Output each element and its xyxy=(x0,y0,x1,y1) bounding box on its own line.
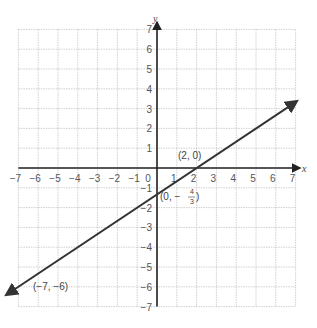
svg-text:−2: −2 xyxy=(109,173,121,184)
svg-text:−1: −1 xyxy=(141,183,153,194)
svg-text:7: 7 xyxy=(146,24,152,35)
coordinate-plane: −7−6−5−4−3−2−101234567−7−6−5−4−3−2−11234… xyxy=(0,0,317,328)
svg-text:3: 3 xyxy=(190,198,194,205)
svg-text:−4: −4 xyxy=(141,242,153,253)
svg-text:−7: −7 xyxy=(141,302,153,313)
svg-text:3: 3 xyxy=(146,104,152,115)
y-axis-label: y xyxy=(152,13,158,24)
svg-text:−3: −3 xyxy=(89,173,101,184)
svg-text:4: 4 xyxy=(190,188,194,195)
svg-text:−6: −6 xyxy=(29,173,41,184)
svg-text:2: 2 xyxy=(191,173,197,184)
svg-text:7: 7 xyxy=(290,173,296,184)
svg-text:−5: −5 xyxy=(141,262,153,273)
svg-text:−4: −4 xyxy=(69,173,81,184)
plotted-line xyxy=(12,102,295,291)
svg-text:6: 6 xyxy=(146,44,152,55)
axes xyxy=(18,22,300,307)
svg-text:4: 4 xyxy=(146,84,152,95)
svg-text:3: 3 xyxy=(211,173,217,184)
svg-text:(0, −: (0, − xyxy=(160,191,180,202)
svg-text:6: 6 xyxy=(270,173,276,184)
svg-text:−7: −7 xyxy=(10,173,22,184)
annotation-2-0: (2, 0) xyxy=(178,150,201,161)
annotation-neg7-neg6: (−7, −6) xyxy=(33,281,68,292)
svg-text:2: 2 xyxy=(146,123,152,134)
svg-text:−1: −1 xyxy=(128,173,140,184)
svg-text:5: 5 xyxy=(146,64,152,75)
svg-text:4: 4 xyxy=(230,173,236,184)
x-axis-label: x xyxy=(301,163,307,174)
svg-text:−3: −3 xyxy=(141,222,153,233)
svg-text:): ) xyxy=(196,191,199,202)
annotation-0-neg4-3: (0, − 4 3 ) xyxy=(160,188,199,205)
svg-text:−6: −6 xyxy=(141,282,153,293)
svg-text:1: 1 xyxy=(146,143,152,154)
svg-text:−5: −5 xyxy=(49,173,61,184)
svg-text:5: 5 xyxy=(250,173,256,184)
